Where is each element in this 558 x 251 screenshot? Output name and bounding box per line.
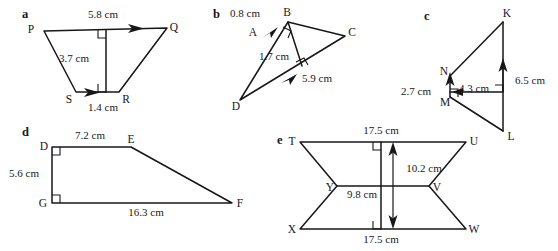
figure-c-vertex-N: N	[440, 65, 449, 77]
figure-c-right-angle-right	[495, 85, 503, 92]
figure-e-dim-yv: 9.8 cm	[347, 188, 377, 200]
figure-b-parallel-mark-ab	[262, 27, 278, 38]
figure-d-vertex-E: E	[127, 133, 134, 145]
figure-d-vertex-D: D	[40, 140, 48, 152]
figure-a-vertex-S: S	[66, 93, 72, 105]
figure-a-dim-base: 1.4 cm	[88, 101, 118, 113]
figure-a-vertex-R: R	[122, 93, 130, 105]
figure-b-vertex-D: D	[232, 100, 240, 112]
figure-c-vertex-M: M	[440, 96, 450, 108]
figure-d-dim-dg: 5.6 cm	[9, 167, 39, 179]
figure-d-right-angle-D	[52, 147, 60, 155]
figure-e-vertex-W: W	[469, 223, 480, 235]
figure-a-dim-top: 5.8 cm	[88, 8, 118, 20]
figure-e-dim-height: 10.2 cm	[406, 162, 442, 174]
figure-c-vertex-K: K	[503, 7, 512, 19]
figure-b-parallel-mark-dc	[281, 74, 297, 85]
figure-c-vertex-L: L	[507, 130, 514, 142]
figure-a-vertex-P: P	[28, 23, 34, 35]
figure-d-vertex-G: G	[39, 197, 47, 209]
figure-c-side-ML	[450, 97, 503, 131]
figure-c-dim-width: 4.3 cm	[459, 82, 489, 94]
figure-b-vertex-C: C	[348, 26, 356, 38]
geometry-figures-canvas: a P Q R S 5.8 cm 3.7 cm 1.4 cm b	[0, 0, 558, 251]
figure-b-height-line	[288, 22, 302, 66]
figure-d-dim-gf: 16.3 cm	[128, 206, 164, 218]
figure-e-vertex-T: T	[288, 135, 295, 147]
worksheet-sheet: a P Q R S 5.8 cm 3.7 cm 1.4 cm b	[0, 0, 558, 251]
figure-d-group	[52, 147, 232, 203]
figure-d-right-angle-G	[52, 195, 60, 203]
figure-b-dim-ab: 0.8 cm	[230, 7, 260, 19]
figure-c-group	[446, 22, 508, 131]
figure-c-dim-height: 6.5 cm	[515, 74, 545, 86]
figure-a-right-angle-top	[98, 30, 106, 38]
figure-b-vertex-A: A	[249, 26, 258, 38]
figure-e-dim-tu: 17.5 cm	[363, 124, 399, 136]
figure-a-part-label: a	[22, 7, 29, 21]
figure-e-vertex-U: U	[470, 135, 479, 147]
figure-a-vertex-Q: Q	[170, 21, 179, 33]
figure-e-vertex-V: V	[433, 181, 442, 193]
figure-b-vertex-B: B	[283, 6, 291, 18]
figure-e-part-label: e	[277, 133, 283, 147]
figure-e-vertex-X: X	[288, 223, 297, 235]
figure-e-dim-xw: 17.5 cm	[363, 233, 399, 245]
figure-c-dim-mn: 2.7 cm	[401, 85, 431, 97]
figure-d-vertex-F: F	[237, 197, 243, 209]
figure-b-dim-height: 1.7 cm	[259, 50, 289, 62]
figure-e-right-angle-bottom	[373, 221, 381, 229]
figure-a-dim-height: 3.7 cm	[59, 52, 89, 64]
figure-b-part-label: b	[213, 7, 220, 21]
figure-d-dim-de: 7.2 cm	[75, 129, 105, 141]
figure-a-right-angle-bottom	[98, 84, 106, 92]
figure-e-vertex-Y: Y	[326, 181, 335, 193]
figure-e-right-angle-top	[373, 142, 381, 150]
figure-c-part-label: c	[424, 9, 430, 23]
figure-d-part-label: d	[22, 125, 29, 139]
figure-c-side-KN	[450, 22, 503, 76]
figure-d-outline	[52, 147, 232, 203]
figure-b-dim-base: 5.9 cm	[302, 72, 332, 84]
